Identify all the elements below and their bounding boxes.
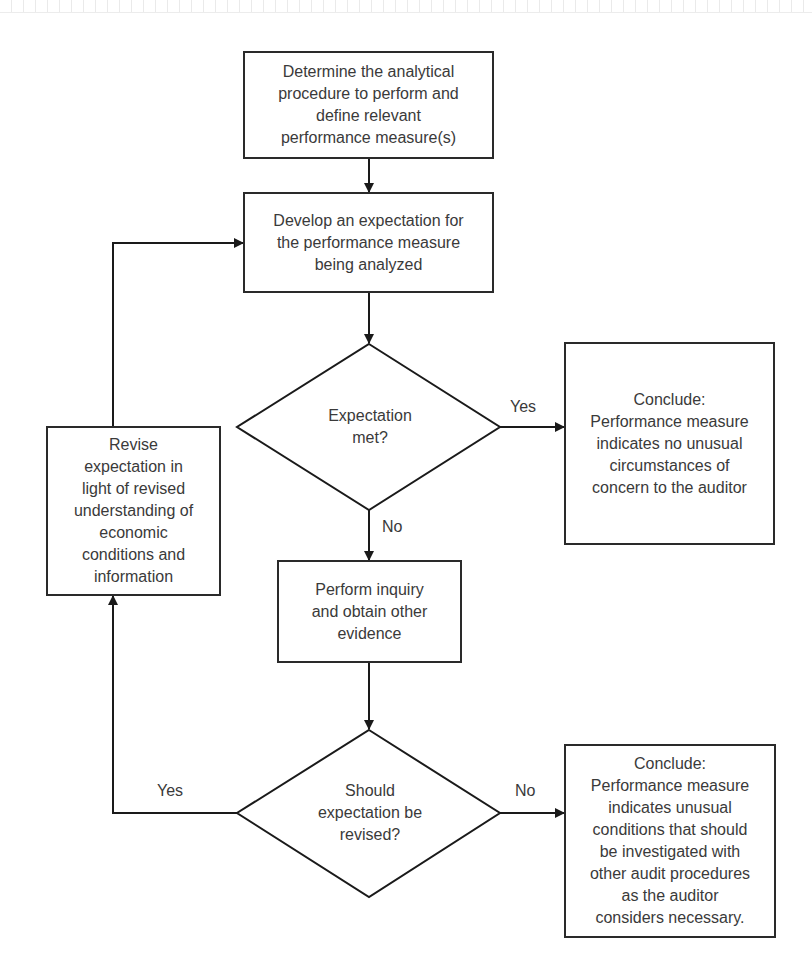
node-revise-expectation: Revise expectation in light of revised u… <box>46 426 221 596</box>
edge-revise-develop <box>113 243 243 427</box>
node-conclude-unusual: Conclude: Performance measure indicates … <box>564 744 776 938</box>
edge-revise-yes <box>113 596 237 813</box>
node-perform-inquiry: Perform inquiry and obtain other evidenc… <box>277 560 462 663</box>
node-inquiry-label: Perform inquiry and obtain other evidenc… <box>312 579 428 645</box>
node-develop-expectation: Develop an expectation for the performan… <box>243 192 494 293</box>
node-conclude-no-unusual-label: Conclude: Performance measure indicates … <box>590 389 748 499</box>
node-determine-label: Determine the analytical procedure to pe… <box>278 61 459 149</box>
edge-label-met-no: No <box>382 518 402 536</box>
decision-expectation-met-label: Expectation met? <box>328 405 412 449</box>
edge-label-revise-yes: Yes <box>157 782 183 800</box>
decision-should-revise-label: Should expectation be revised? <box>318 780 422 846</box>
node-conclude-unusual-label: Conclude: Performance measure indicates … <box>590 753 750 929</box>
decision-expectation-met: Expectation met? <box>290 400 450 454</box>
node-revise-label: Revise expectation in light of revised u… <box>74 434 193 588</box>
node-determine-procedure: Determine the analytical procedure to pe… <box>243 51 494 159</box>
edge-label-revise-no: No <box>515 782 535 800</box>
decision-should-revise: Should expectation be revised? <box>285 775 455 851</box>
node-develop-label: Develop an expectation for the performan… <box>273 210 463 276</box>
edge-label-met-yes: Yes <box>510 398 536 416</box>
node-conclude-no-unusual: Conclude: Performance measure indicates … <box>564 342 775 545</box>
